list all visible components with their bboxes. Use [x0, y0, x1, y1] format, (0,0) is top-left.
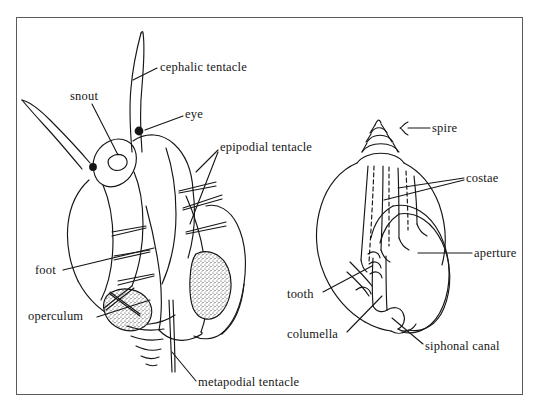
- leader-metapodial-tentacle: [172, 352, 196, 381]
- spire-bracket: [400, 122, 408, 135]
- label-spire: spire: [432, 122, 457, 135]
- label-metapodial-tentacle: metapodial tentacle: [198, 376, 299, 389]
- siphonal-canal: [387, 308, 416, 334]
- figure-page: cephalic tentacle snout eye epipodial te…: [0, 0, 542, 409]
- snail-shell-drawing: [316, 120, 449, 333]
- eye-right: [135, 127, 144, 136]
- leader-columella: [347, 296, 382, 332]
- operculum-right: [190, 252, 231, 320]
- label-operculum: operculum: [28, 310, 83, 323]
- label-eye: eye: [185, 108, 203, 121]
- leader-lines: [63, 68, 472, 381]
- label-columella: columella: [287, 328, 338, 341]
- leader-epipodial-b: [190, 152, 218, 224]
- leader-eye: [145, 116, 183, 130]
- leader-snout: [92, 104, 118, 155]
- metapodial-tentacle: [169, 300, 175, 372]
- inner-lip: [347, 262, 372, 296]
- aperture: [371, 205, 450, 333]
- snout: [93, 139, 136, 187]
- label-aperture: aperture: [474, 247, 517, 260]
- costae-ribs: [361, 166, 427, 272]
- label-snout: snout: [70, 90, 98, 103]
- label-siphonal-canal: siphonal canal: [425, 340, 500, 353]
- leader-costae-b: [384, 180, 464, 200]
- body-shell-coil: [127, 326, 164, 366]
- label-epipodial-tentacle: epipodial tentacle: [220, 141, 312, 154]
- cephalic-tentacle-left: [22, 100, 90, 169]
- label-costae: costae: [466, 172, 498, 185]
- eye-left: [89, 163, 97, 171]
- label-cephalic-tentacle: cephalic tentacle: [160, 61, 247, 74]
- leader-foot: [63, 248, 154, 270]
- label-tooth: tooth: [287, 288, 314, 301]
- label-foot: foot: [35, 264, 56, 277]
- spire-whorls: [357, 120, 404, 163]
- leader-cephalic-tentacle: [133, 68, 157, 80]
- leader-tooth: [323, 266, 372, 292]
